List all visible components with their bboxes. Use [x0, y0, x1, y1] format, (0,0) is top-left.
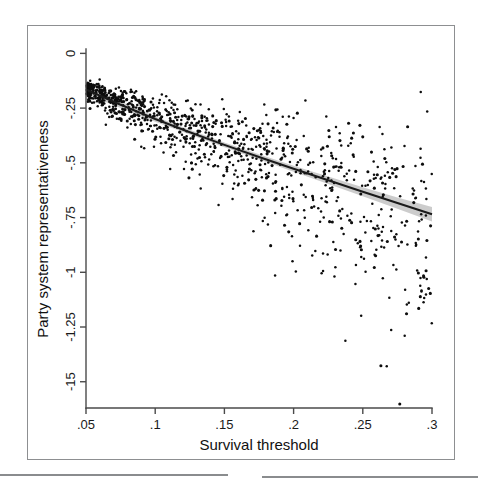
y-tick-label: -.75	[63, 206, 78, 228]
data-point	[240, 142, 243, 145]
data-point	[139, 107, 142, 110]
data-point	[337, 196, 340, 199]
data-point	[334, 266, 337, 269]
data-point	[392, 264, 395, 267]
data-point	[274, 274, 277, 277]
data-point	[426, 110, 429, 113]
data-point	[142, 130, 145, 133]
data-point	[120, 111, 123, 114]
data-point	[369, 179, 372, 182]
data-point	[193, 145, 196, 148]
data-point	[267, 223, 270, 226]
data-point	[147, 128, 150, 131]
data-point	[104, 107, 107, 110]
data-point	[419, 295, 422, 298]
data-point	[335, 200, 338, 203]
data-point	[236, 142, 239, 145]
data-point	[164, 109, 167, 112]
data-point	[415, 245, 418, 248]
data-point	[291, 190, 294, 193]
data-point	[110, 111, 113, 114]
data-point	[285, 123, 288, 126]
data-point	[340, 217, 343, 220]
data-point	[156, 110, 159, 113]
data-point	[391, 167, 394, 170]
x-tick-label: .2	[288, 417, 299, 432]
data-point	[191, 135, 194, 138]
data-point	[229, 135, 232, 138]
data-point	[252, 127, 255, 130]
data-point	[353, 178, 356, 181]
data-point	[149, 125, 152, 128]
data-point	[185, 123, 188, 126]
data-point	[193, 124, 196, 127]
data-point	[123, 90, 126, 93]
data-point	[419, 277, 422, 280]
data-point	[340, 227, 343, 230]
data-point	[140, 122, 143, 125]
data-point	[89, 107, 92, 110]
data-point	[133, 114, 136, 117]
data-point	[205, 119, 208, 122]
data-point	[289, 145, 292, 148]
data-point	[114, 104, 117, 107]
data-point	[96, 85, 99, 88]
data-point	[237, 119, 240, 122]
data-point	[208, 123, 211, 126]
data-point	[303, 194, 306, 197]
data-point	[331, 186, 334, 189]
data-point	[181, 115, 184, 118]
data-point	[288, 115, 291, 118]
data-point	[281, 156, 284, 159]
data-point	[226, 170, 229, 173]
data-point	[413, 189, 416, 192]
data-point	[121, 95, 124, 98]
data-point	[104, 109, 107, 112]
data-point	[143, 147, 146, 150]
data-point	[141, 117, 144, 120]
adjacent-figure-top-edge-left	[0, 474, 228, 476]
data-point	[286, 213, 289, 216]
data-point	[190, 153, 193, 156]
data-point	[265, 114, 268, 117]
scatter-chart: 0-.25-.5-.75-1-1.25-15 .05.1.15.2.25.3 S…	[28, 26, 456, 461]
data-point	[377, 166, 380, 169]
data-point	[169, 134, 172, 137]
data-point	[139, 124, 142, 127]
x-axis-tick-labels: .05.1.15.2.25.3	[77, 417, 437, 432]
data-point	[214, 133, 217, 136]
data-point	[143, 98, 146, 101]
data-point	[185, 100, 188, 103]
data-point	[242, 158, 245, 161]
data-point	[354, 283, 357, 286]
data-point	[340, 144, 343, 147]
data-point	[238, 144, 241, 147]
data-point	[221, 98, 224, 101]
data-point	[126, 126, 128, 129]
data-point	[417, 271, 420, 274]
data-point	[146, 123, 149, 126]
data-point	[191, 168, 194, 171]
data-point	[263, 189, 266, 192]
data-point	[339, 249, 342, 252]
data-point	[323, 173, 326, 176]
data-point	[173, 122, 176, 125]
data-point	[340, 166, 343, 169]
data-point	[415, 242, 418, 245]
data-point	[174, 116, 177, 119]
data-point	[422, 301, 425, 304]
data-point	[406, 125, 409, 128]
data-point	[163, 127, 166, 130]
data-point	[430, 173, 433, 176]
data-point	[88, 95, 91, 98]
data-point	[153, 114, 156, 117]
data-point	[237, 132, 240, 135]
data-point	[338, 209, 341, 212]
data-point	[261, 122, 264, 125]
data-point	[187, 176, 190, 179]
data-point	[370, 151, 373, 154]
data-point	[352, 155, 355, 158]
data-point	[234, 150, 237, 153]
data-point	[130, 100, 133, 103]
data-point	[417, 307, 420, 310]
